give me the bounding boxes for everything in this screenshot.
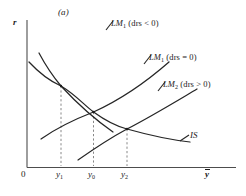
is-lm-figure: (a) r y 0 y1 y0 y2 LM1 (drs < 0) LM1 (dr… — [0, 0, 246, 196]
leader-is — [180, 135, 189, 141]
curve-label-lm1-zero-base: LM — [149, 52, 161, 62]
curve-label-lm1-zero-sub: 1 — [161, 57, 164, 63]
curve-lm2-drs-positive — [78, 89, 197, 160]
panel-caption: (a) — [58, 8, 69, 17]
curve-label-lm1-drs-zero: LM1 (drs = 0) — [149, 53, 197, 62]
curve-label-lm2-drs-positive: LM2 (drs > 0) — [163, 80, 211, 89]
curve-label-is-base: IS — [190, 130, 198, 140]
x-axis-title-text: y — [205, 170, 209, 179]
intersection-point-y1 — [60, 85, 62, 87]
plot-canvas — [0, 0, 246, 196]
x-tick-y2-sub: 2 — [125, 174, 128, 180]
origin-label: 0 — [21, 170, 26, 179]
x-axis-title: y — [205, 170, 209, 179]
curve-label-lm1-neg-condition: (drs < 0) — [128, 18, 158, 28]
curve-label-lm1-neg-base: LM — [111, 18, 123, 28]
curve-label-lm2-pos-condition: (drs > 0) — [180, 79, 210, 89]
curve-label-lm2-pos-base: LM — [163, 79, 175, 89]
x-tick-y0-sub: 0 — [92, 174, 95, 180]
curve-label-lm1-neg-sub: 1 — [123, 23, 126, 29]
curve-lm1-drs-negative — [39, 53, 113, 132]
intersection-point-y0 — [92, 111, 94, 113]
curve-lm1-drs-zero — [41, 62, 169, 139]
x-tick-y1-sub: 1 — [60, 174, 63, 180]
curve-label-lm1-zero-condition: (drs = 0) — [166, 52, 196, 62]
x-tick-label-y1: y1 — [56, 170, 63, 179]
x-tick-label-y2: y2 — [121, 170, 128, 179]
curve-label-lm1-drs-negative: LM1 (drs < 0) — [111, 19, 159, 28]
intersection-point-y2 — [126, 128, 128, 130]
curve-label-is: IS — [190, 131, 198, 140]
x-tick-label-y0: y0 — [88, 170, 95, 179]
curve-label-lm2-pos-sub: 2 — [175, 84, 178, 90]
y-axis-title: r — [13, 18, 17, 27]
